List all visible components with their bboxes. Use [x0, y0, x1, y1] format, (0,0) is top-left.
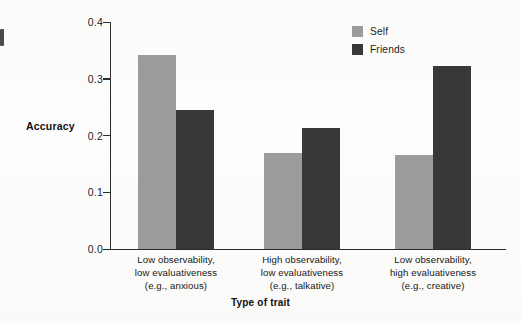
category-label-line: Low observability,	[106, 253, 246, 266]
bar-self-group-3	[395, 155, 433, 249]
category-label-line: (e.g., anxious)	[106, 279, 246, 292]
legend-item-self: Self	[352, 24, 405, 39]
legend-swatch-self	[352, 26, 363, 37]
bar-friends-group-3	[433, 66, 471, 249]
legend-item-friends: Friends	[352, 42, 405, 57]
category-label-line: (e.g., talkative)	[232, 279, 372, 292]
figure-bar-chart: 0.00.10.20.30.4 Accuracy Low observabili…	[0, 0, 521, 323]
legend-label: Friends	[370, 44, 405, 55]
category-label-line: low evaluativeness	[106, 266, 246, 279]
legend-swatch-friends	[352, 44, 363, 55]
bar-friends-group-1	[176, 110, 214, 249]
bar-self-group-1	[138, 55, 176, 249]
category-label-line: low evaluativeness	[232, 266, 372, 279]
bar-friends-group-2	[302, 128, 340, 249]
x-axis-line	[110, 249, 506, 250]
legend: SelfFriends	[352, 24, 405, 60]
x-axis-label: Type of trait	[0, 297, 521, 308]
legend-label: Self	[370, 26, 388, 37]
x-axis-category-label-1: Low observability,low evaluativeness(e.g…	[106, 253, 246, 293]
x-axis-category-label-3: Low observability,high evaluativeness(e.…	[363, 253, 503, 293]
bar-self-group-2	[264, 153, 302, 249]
x-axis-category-labels: Low observability,low evaluativeness(e.g…	[0, 253, 521, 299]
category-label-line: Low observability,	[363, 253, 503, 266]
x-axis-category-label-2: High observability,low evaluativeness(e.…	[232, 253, 372, 293]
category-label-line: High observability,	[232, 253, 372, 266]
category-label-line: (e.g., creative)	[363, 279, 503, 292]
bars-layer	[0, 0, 521, 249]
category-label-line: high evaluativeness	[363, 266, 503, 279]
